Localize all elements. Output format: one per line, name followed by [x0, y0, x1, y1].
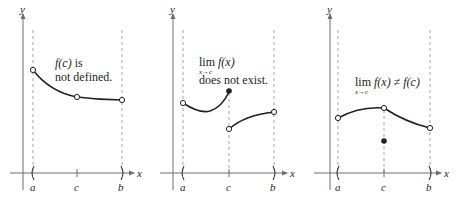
annotation-line-2: does not exist.: [199, 73, 268, 87]
open-point-b: [271, 109, 276, 114]
continuity-figure: y x a c b f(c) is not defined. y x a: [0, 0, 459, 197]
x-axis-label: x: [289, 167, 295, 179]
tick-label-a: a: [335, 181, 341, 193]
y-axis-label: y: [19, 3, 25, 15]
tick-label-a: a: [30, 181, 36, 193]
y-axis-label: y: [326, 3, 332, 15]
tick-label-b: b: [270, 181, 276, 193]
right-curve: [229, 112, 274, 129]
open-point-a: [335, 115, 340, 120]
tick-label-b: b: [426, 181, 432, 193]
panel-1: y x a c b f(c) is not defined.: [10, 3, 142, 193]
y-axis-label: y: [169, 3, 175, 15]
open-point-c: [381, 105, 386, 110]
open-point-c: [74, 94, 79, 99]
open-point-c: [226, 126, 231, 131]
x-axis-label: x: [136, 167, 142, 179]
filled-point-c: [226, 88, 232, 94]
open-point-b: [427, 125, 432, 130]
left-curve: [183, 92, 229, 112]
annotation-limit: lim f(x): [199, 55, 235, 69]
tick-label-a: a: [180, 181, 186, 193]
x-axis-label: x: [443, 167, 449, 179]
annotation-line-2: not defined.: [55, 70, 112, 84]
tick-label-c: c: [74, 181, 79, 193]
filled-point-fc: [381, 138, 387, 144]
open-point-a: [180, 100, 185, 105]
open-point-b: [119, 97, 124, 102]
panel-2: y x a c b lim f(x) x→c does not exist.: [160, 3, 295, 193]
tick-label-c: c: [226, 181, 231, 193]
annotation-limit: lim f(x) ≠ f(c): [355, 75, 420, 89]
panel-3: y x a c b lim f(x) ≠ f(c) x→c: [314, 3, 449, 193]
tick-label-c: c: [381, 181, 386, 193]
open-point-a: [30, 67, 35, 72]
annotation-subscript: x→c: [354, 88, 369, 96]
annotation-line-1: f(c) is: [55, 56, 83, 70]
tick-label-b: b: [118, 181, 124, 193]
